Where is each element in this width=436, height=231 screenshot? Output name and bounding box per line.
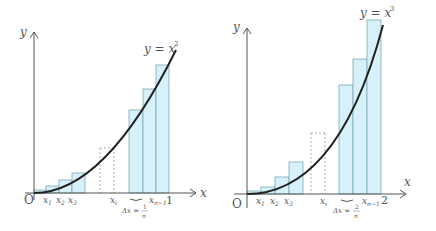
svg-text:Δx =: Δx =	[332, 207, 350, 215]
svg-text:2: 2	[274, 200, 279, 207]
origin-label: O	[24, 193, 34, 207]
delta-brace-icon	[130, 199, 142, 201]
delta-x-label-right: Δx = 2 n	[332, 203, 360, 219]
bar-4	[289, 162, 303, 194]
svg-text:n−1: n−1	[154, 199, 167, 206]
curve-label-right: y = x 3	[359, 5, 394, 20]
chart-x-cubed: y x O y = x 3 x 1 x 2 x 3 x i x n−1 2 Δx	[232, 5, 411, 219]
svg-text:3: 3	[73, 199, 77, 206]
tick-label-x3: x 3	[284, 196, 293, 207]
svg-text:3: 3	[289, 200, 293, 207]
svg-text:n: n	[142, 212, 146, 219]
svg-text:1: 1	[261, 200, 265, 207]
riemann-bars-right	[247, 20, 381, 194]
tick-label-x2: x 2	[56, 195, 65, 206]
tick-label-x1: x 1	[256, 196, 265, 207]
riemann-sum-diagrams: y x O y = x 2 x 1 x 2 x 3 x i x n−1 1	[0, 0, 436, 231]
svg-text:Δx =: Δx =	[121, 207, 139, 215]
tick-label-xn-1: x n−1	[362, 196, 380, 207]
svg-text:y = x: y = x	[359, 6, 391, 20]
svg-text:3: 3	[390, 5, 394, 13]
tick-label-x2: x 2	[270, 196, 279, 207]
delta-x-label-left: Δx = 1 n	[121, 203, 148, 219]
svg-text:n−1: n−1	[367, 200, 380, 207]
tick-label-xi: x i	[320, 196, 327, 207]
delta-brace-icon	[341, 200, 353, 202]
svg-text:1: 1	[143, 203, 147, 210]
y-axis-label: y	[19, 25, 27, 39]
svg-text:2: 2	[174, 40, 178, 48]
svg-text:i: i	[115, 199, 117, 206]
svg-text:i: i	[325, 200, 327, 207]
bar-n	[367, 20, 381, 194]
svg-text:n: n	[354, 212, 358, 219]
chart-x-squared: y x O y = x 2 x 1 x 2 x 3 x i x n−1 1	[19, 25, 207, 219]
bar-n-2	[339, 85, 353, 194]
tick-label-end: 1	[166, 194, 173, 207]
curve-label-left: y = x 2	[143, 40, 178, 56]
svg-text:y = x: y = x	[143, 42, 175, 56]
dashed-strip-xi-right	[311, 133, 325, 194]
svg-text:1: 1	[48, 199, 52, 206]
svg-text:2: 2	[60, 199, 65, 206]
bar-n-2	[129, 110, 143, 193]
tick-label-xi: x i	[110, 195, 117, 206]
x-axis-label: x	[404, 175, 411, 189]
tick-label-end: 2	[381, 194, 388, 207]
y-axis-label: y	[232, 20, 240, 34]
svg-text:2: 2	[355, 203, 359, 210]
tick-label-x1: x 1	[43, 195, 52, 206]
x-axis-label: x	[200, 186, 207, 200]
tick-label-x3: x 3	[68, 195, 77, 206]
origin-label: O	[232, 197, 242, 211]
tick-label-xn-1: x n−1	[149, 195, 167, 206]
riemann-bars-left	[34, 65, 169, 193]
